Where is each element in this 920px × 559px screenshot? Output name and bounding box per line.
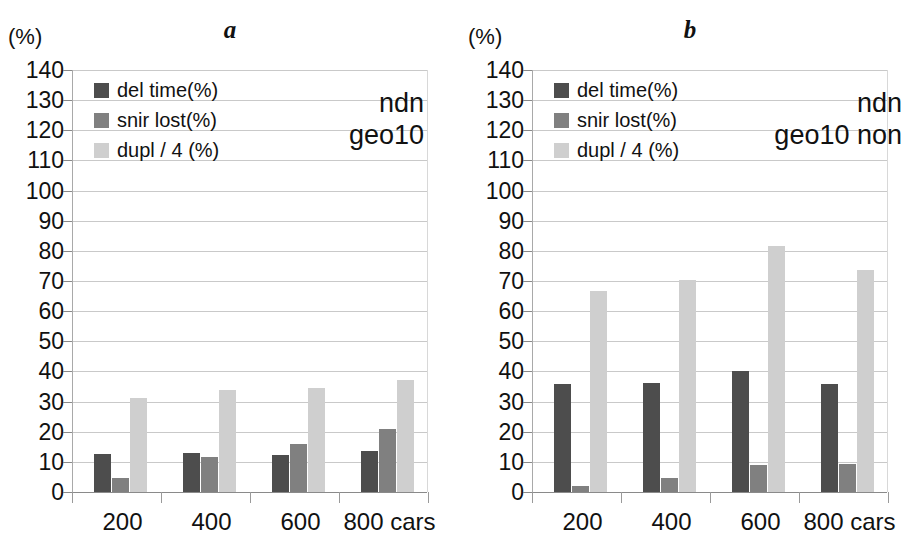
legend-swatch-icon [554, 143, 569, 158]
y-axis-tick-mark [63, 462, 72, 463]
y-axis-tick-mark [63, 221, 72, 222]
bar [308, 388, 325, 492]
annotation-a: ndngeo10 [349, 88, 424, 152]
x-axis-tick-mark [250, 492, 251, 503]
y-axis-tick-mark [63, 100, 72, 101]
y-axis-tick-mark [523, 160, 532, 161]
y-axis-labels-b: 0102030405060708090100110120130140 [460, 0, 524, 559]
y-axis-tick-mark [523, 432, 532, 433]
y-axis-tick-mark [523, 402, 532, 403]
bar [397, 380, 414, 492]
bar [590, 291, 607, 492]
x-axis-tick-label: 600 [280, 508, 320, 536]
legend-item: dupl / 4 (%) [554, 135, 679, 165]
bar [379, 429, 396, 492]
y-axis-tick-mark [523, 191, 532, 192]
bar [94, 454, 111, 492]
legend-swatch-icon [94, 143, 109, 158]
legend-swatch-icon [554, 113, 569, 128]
legend-swatch-icon [94, 83, 109, 98]
legend-item: del time(%) [94, 75, 219, 105]
x-axis-tick-mark [339, 492, 340, 503]
legend-item: snir lost(%) [94, 105, 219, 135]
y-axis-tick-mark [63, 341, 72, 342]
x-axis-tick-mark [799, 492, 800, 503]
annotation-line: geo10 non [774, 120, 902, 152]
y-axis-tick-mark [63, 432, 72, 433]
y-axis-tick-label: 80 [498, 239, 524, 262]
annotation-b: ndngeo10 non [774, 88, 902, 152]
bar [839, 464, 856, 492]
y-axis-tick-label: 100 [26, 179, 64, 202]
y-axis-tick-mark [523, 371, 532, 372]
y-axis-tick-label: 110 [487, 149, 524, 172]
y-axis-tick-label: 60 [38, 300, 64, 323]
bar [361, 451, 378, 492]
y-axis-tick-label: 30 [38, 390, 64, 413]
bar [112, 478, 129, 492]
bar [201, 457, 218, 492]
x-axis-ticks-a [72, 492, 428, 504]
x-axis-tick-label: 600 [740, 508, 780, 536]
chart-panel-b: b (%) 0102030405060708090100110120130140… [460, 0, 920, 559]
y-axis-tick-mark [523, 100, 532, 101]
legend-label: snir lost(%) [577, 110, 677, 130]
figure-container: a (%) 0102030405060708090100110120130140… [0, 0, 920, 559]
legend-a: del time(%)snir lost(%)dupl / 4 (%) [94, 75, 219, 165]
y-axis-tick-mark [523, 70, 532, 71]
x-axis-tick-label: 200 [102, 508, 142, 536]
legend-label: dupl / 4 (%) [577, 140, 679, 160]
legend-item: dupl / 4 (%) [94, 135, 219, 165]
bar [183, 453, 200, 492]
y-axis-tick-label: 90 [38, 209, 64, 232]
x-axis-tick-mark [428, 492, 429, 503]
y-axis-tick-mark [523, 130, 532, 131]
y-axis-labels-a: 0102030405060708090100110120130140 [0, 0, 64, 559]
legend-item: del time(%) [554, 75, 679, 105]
y-axis-tick-mark [63, 402, 72, 403]
y-axis-tick-label: 50 [38, 330, 64, 353]
bar [857, 270, 874, 492]
bar [768, 246, 785, 492]
y-axis-tick-mark [523, 311, 532, 312]
legend-b: del time(%)snir lost(%)dupl / 4 (%) [554, 75, 679, 165]
y-axis-tick-label: 130 [486, 89, 524, 112]
annotation-line: ndn [349, 88, 424, 120]
x-axis-labels-a: 200400600800 cars [0, 508, 460, 548]
x-axis-tick-mark [888, 492, 889, 503]
y-axis-tick-mark [523, 341, 532, 342]
chart-panel-a: a (%) 0102030405060708090100110120130140… [0, 0, 460, 559]
annotation-line: ndn [774, 88, 902, 120]
x-axis-tick-mark [532, 492, 533, 503]
bar [272, 455, 289, 492]
x-axis-tick-mark [710, 492, 711, 503]
y-axis-tick-label: 40 [498, 360, 524, 383]
y-axis-tick-mark [63, 160, 72, 161]
bar [661, 478, 678, 492]
y-axis-tick-label: 100 [486, 179, 524, 202]
x-axis-tick-mark [72, 492, 73, 503]
y-axis-tick-label: 20 [38, 420, 64, 443]
y-axis-tick-mark [63, 130, 72, 131]
legend-label: del time(%) [117, 80, 218, 100]
bar [290, 444, 307, 492]
bar [130, 398, 147, 492]
x-axis-tick-label: 400 [651, 508, 691, 536]
panel-letter-a: a [0, 16, 460, 44]
y-axis-tick-label: 40 [38, 360, 64, 383]
y-axis-tick-mark [523, 221, 532, 222]
y-axis-tick-label: 120 [486, 119, 524, 142]
y-axis-tick-mark [63, 251, 72, 252]
y-axis-tick-label: 140 [26, 59, 64, 82]
y-axis-tick-mark [63, 281, 72, 282]
x-axis-tick-label: 200 [562, 508, 602, 536]
y-axis-tick-label: 120 [26, 119, 64, 142]
bar [554, 384, 571, 492]
bar [219, 390, 236, 492]
x-axis-labels-b: 200400600800 cars [460, 508, 920, 548]
x-axis-tick-label: 400 [191, 508, 231, 536]
y-axis-tick-label: 50 [498, 330, 524, 353]
bar-group [272, 70, 325, 492]
y-axis-tick-mark [63, 492, 72, 493]
y-axis-tick-mark [523, 251, 532, 252]
